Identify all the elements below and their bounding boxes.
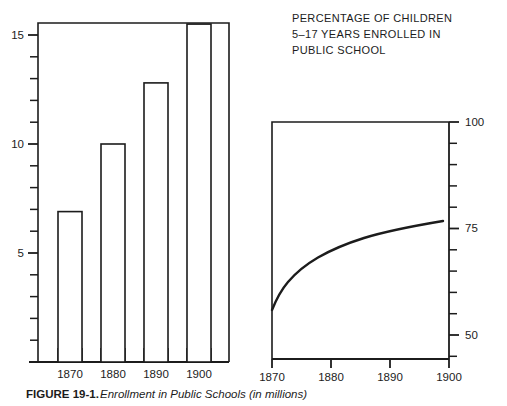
line-chart-y-ticks (449, 122, 459, 356)
line-chart-title-line-2: 5–17 YEARS ENROLLED IN (292, 28, 441, 40)
bar-1890 (144, 83, 168, 362)
caption-figure-number: FIGURE 19-1. (26, 388, 99, 400)
line-chart-xtick-label-1880: 1880 (318, 371, 344, 383)
bar-chart-ytick-label-10: 10 (11, 138, 24, 150)
bar-chart-y-ticks (28, 35, 38, 340)
line-chart-frame (272, 122, 449, 359)
bar-1900 (187, 24, 211, 362)
caption-description: Enrollment in Public Schools (in million… (100, 388, 307, 400)
bar-1880 (101, 144, 125, 362)
line-chart-ytick-label-100: 100 (465, 116, 484, 128)
line-chart-title-line-3: PUBLIC SCHOOL (292, 44, 386, 56)
bar-chart: 15 10 5 1870 1880 1890 190 (11, 23, 229, 380)
enrollment-percentage-curve (272, 221, 443, 310)
line-chart-xtick-label-1900: 1900 (436, 371, 462, 383)
line-chart-ytick-label-50: 50 (465, 329, 478, 341)
line-chart-xtick-label-1890: 1890 (377, 371, 403, 383)
line-chart-x-ticks (272, 359, 449, 368)
bar-1870 (58, 212, 82, 362)
bar-chart-xtick-label-1890: 1890 (143, 368, 169, 380)
line-chart-xtick-label-1870: 1870 (259, 371, 285, 383)
figure-container: 15 10 5 1870 1880 1890 190 (0, 0, 507, 406)
line-chart-title-line-1: PERCENTAGE OF CHILDREN (292, 12, 452, 24)
bar-chart-xtick-label-1880: 1880 (100, 368, 126, 380)
bar-chart-ytick-label-5: 5 (18, 247, 24, 259)
line-chart: PERCENTAGE OF CHILDREN 5–17 YEARS ENROLL… (259, 12, 484, 383)
bar-chart-ytick-label-15: 15 (11, 29, 24, 41)
line-chart-ytick-label-75: 75 (465, 222, 478, 234)
figure-svg: 15 10 5 1870 1880 1890 190 (0, 0, 507, 406)
bar-chart-xtick-label-1900: 1900 (186, 368, 212, 380)
bar-chart-xtick-label-1870: 1870 (57, 368, 83, 380)
figure-caption: FIGURE 19-1. Enrollment in Public School… (26, 388, 307, 400)
